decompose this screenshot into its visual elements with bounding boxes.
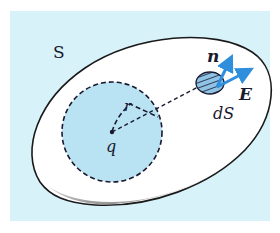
label-area-element: dS [213,104,234,123]
label-field: E [238,84,253,104]
label-surface: S [53,42,65,62]
point-charge-dot [110,130,114,134]
gauss-law-diagram: S q r n E dS [0,0,280,233]
label-normal: n [207,46,219,66]
label-radius: r [124,97,132,115]
label-charge: q [106,137,116,156]
